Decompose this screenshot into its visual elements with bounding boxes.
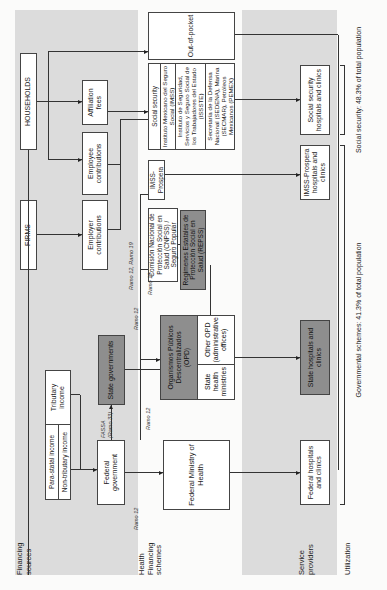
connector: [108, 164, 120, 165]
connector: [120, 119, 148, 120]
arrow-icon: [93, 468, 97, 472]
connector: [140, 195, 141, 440]
imss-prospera-box: IMSS-Prospera: [148, 160, 165, 200]
connector: [210, 265, 211, 315]
other-income-box: Para-statal income Non-tributary income: [45, 424, 71, 500]
other-opd-box: Other OPD (administrative offices): [198, 316, 234, 364]
arrow-icon: [296, 98, 300, 102]
section-service-providers: Service providers: [298, 535, 315, 575]
connector: [37, 101, 82, 102]
arrow-icon: [144, 50, 148, 54]
social-security-header: Social security: [149, 64, 161, 149]
ramo12-label-c: Ramo 12: [133, 308, 139, 330]
section-utilization: Utilization: [344, 525, 353, 575]
arrow-icon: [144, 110, 148, 114]
opd-box: Organismos Públicos Descentralizados (OP…: [160, 315, 235, 400]
section-financing-sources: Financing sources: [16, 535, 33, 575]
connector: [140, 269, 148, 270]
ramo12-19-label: Ramo 12, Ramo 19: [128, 242, 134, 290]
arrow-icon: [296, 471, 300, 475]
federal-government-box: Federal government: [97, 440, 125, 505]
connector: [108, 229, 120, 230]
connector: [120, 120, 121, 230]
connector: [71, 394, 80, 395]
affiliation-fees-box: Affiliation fees: [82, 80, 108, 125]
cnpss-box: Comisión Nacional de Protección Social e…: [148, 208, 178, 282]
ramo33-label: (Ramo 33): [107, 412, 113, 438]
ss-issste: Instituto de Seguridad, Servicios y Segu…: [176, 64, 206, 149]
connector: [108, 111, 148, 112]
connector: [235, 99, 300, 100]
employer-contributions-box: Employer contributions: [82, 200, 108, 270]
arrow-icon: [159, 471, 163, 475]
state-governments-box: State governments: [98, 335, 125, 405]
ss-imss: Instituto Mexicano del Seguro Social (IM…: [161, 64, 176, 149]
employee-contributions-box: Employee contributions: [82, 132, 108, 195]
connector: [80, 395, 81, 470]
connector: [140, 194, 148, 195]
arrow-icon: [78, 158, 82, 162]
connector: [125, 472, 163, 473]
arrow-icon: [296, 173, 300, 177]
connector: [165, 174, 300, 175]
federal-hospitals-box: Federal hospitals and clinics: [300, 440, 330, 505]
households-trunk: [28, 150, 29, 575]
social-security-brace: [340, 65, 345, 135]
section-health-financing-schemes: Health Financing schemes: [138, 535, 164, 575]
social-security-box: Social security Instituto Mexicano del S…: [148, 63, 235, 150]
connector: [48, 159, 82, 160]
ramo12-label-b: Ramo 12: [145, 408, 151, 430]
tributary-income-box: Tributary income: [45, 370, 71, 425]
imss-prospera-hospitals-box: IMSS-Prospera hospitals and clinics: [300, 145, 330, 200]
connector: [37, 234, 82, 235]
state-health-ministries-box: State health ministries: [198, 364, 234, 399]
arrow-icon: [78, 233, 82, 237]
connector: [235, 357, 300, 358]
governmental-utilization-label: Governmental schemes: 41.3% of total pop…: [355, 180, 363, 460]
social-security-utilization-label: Social security: 48.3% of total populati…: [355, 10, 363, 170]
fassa-label: FASSA: [100, 420, 106, 438]
arrow-icon: [156, 358, 160, 362]
ramo12-label-a: Ramo 12: [133, 508, 139, 530]
governmental-brace: [340, 145, 345, 505]
connector: [178, 244, 180, 245]
para-statal-income: Para-statal income: [46, 425, 59, 499]
arrow-icon: [296, 356, 300, 360]
health-system-diagram: Financing sources Health Financing schem…: [0, 0, 387, 590]
out-of-pocket-box: Out-of-pocket: [148, 12, 235, 60]
connector: [48, 52, 49, 160]
households-box: HOUSEHOLDS: [20, 53, 37, 150]
social-security-hospitals-box: Social security hospitals and clinics: [300, 65, 330, 135]
connector: [111, 405, 112, 440]
arrow-icon: [78, 100, 82, 104]
arrow-icon: [109, 405, 113, 409]
federal-ministry-box: Federal Ministry of Health: [163, 440, 230, 510]
ss-sedena: Secretaría de la Defensa Nacional (SEDEN…: [206, 64, 235, 149]
connector: [125, 369, 160, 370]
opd-title: Organismos Públicos Descentralizados (OP…: [161, 316, 197, 399]
connector: [338, 35, 339, 470]
connector: [235, 34, 338, 35]
ramo12-label-d: Ramo 12: [147, 273, 153, 295]
state-hospitals-box: State hospitals and clinics: [300, 320, 330, 395]
repss-box: Regímenes Estatales de Protección Social…: [180, 210, 206, 290]
non-tributary-income: Non-tributary income: [59, 425, 71, 499]
connector: [230, 472, 300, 473]
connector: [48, 51, 148, 52]
